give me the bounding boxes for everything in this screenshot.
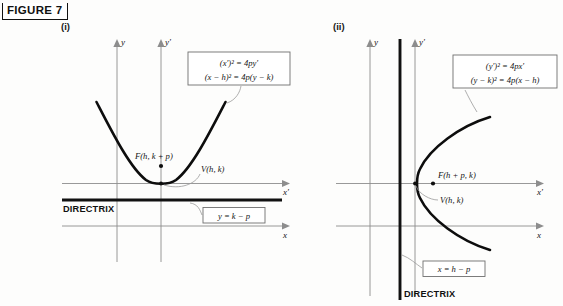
panel-i-x-axis: x [62,222,290,240]
panel-i-directrix-equation-callout: y = k − p [190,203,265,223]
figure-canvas: x x′ y y′ F(h, k + p) V(h, k) [0,0,563,306]
panel-i-xprime-axis-label: x′ [282,187,290,197]
panel-ii-equation-line2: (y − k)² = 4p(x − h) [471,75,540,85]
panel-ii-directrix-label: DIRECTRIX [404,289,456,299]
panel-i-x-axis-label: x [282,230,287,240]
panel-ii-vertex-label: V(h, k) [440,195,464,205]
panel-ii-vertex-point [413,182,417,186]
panel-ii-diagram: x x′ y y′ DIRECTRIX F(h + p, k) [336,37,557,300]
panel-i-focus-point [159,164,163,168]
panel-ii-xprime-axis-label: x′ [536,187,544,197]
panel-ii-focus-point [431,181,435,185]
panel-i-directrix-equation: y = k − p [217,211,251,221]
panel-ii-equation-line1: (y′)² = 4px′ [486,61,524,71]
panel-ii-y-axis-label: y [373,37,378,47]
panel-i-equation-line2: (x − h)² = 4p(y − k) [205,72,274,82]
panel-i-equation-line1: (x′)² = 4py′ [220,58,258,68]
panel-i-equation-box: (x′)² = 4py′ (x − h)² = 4p(y − k) [188,52,290,103]
panel-i-directrix-label: DIRECTRIX [63,204,115,214]
panel-i-xprime-axis: x′ [62,180,290,197]
panel-ii-x-axis: x [336,222,544,240]
panel-i-vertex-label: V(h, k) [201,164,225,174]
panel-ii-focus-label: F(h + p, k) [437,170,476,180]
panel-i-yprime-axis: y′ [157,37,172,262]
panel-i-y-axis-label: y [120,37,125,47]
panel-ii-equation-box: (y′)² = 4px′ (y − k)² = 4p(x − h) [453,55,557,112]
panel-ii-yprime-axis: y′ [411,37,426,296]
panel-i-focus-label: F(h, k + p) [134,151,173,161]
panel-i-diagram: x x′ y y′ F(h, k + p) V(h, k) [62,37,290,262]
panel-ii-directrix-equation: x = h − p [437,264,471,274]
panel-i-vertex-point [159,182,163,186]
panel-ii-y-axis: y [366,37,378,296]
panel-ii-x-axis-label: x [536,230,541,240]
panel-ii-yprime-axis-label: y′ [418,37,426,47]
panel-ii-directrix-equation-callout: x = h − p [402,255,485,277]
panel-i-yprime-axis-label: y′ [164,37,172,47]
